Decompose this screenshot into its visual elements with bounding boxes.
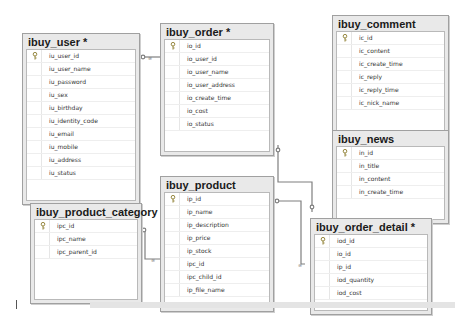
column-row[interactable]: ip_name	[165, 206, 269, 219]
column-row[interactable]: iod_id	[315, 235, 427, 248]
table-title[interactable]: ibuy_user *	[23, 34, 139, 49]
column-row[interactable]: ip_description	[165, 219, 269, 232]
row-gutter	[351, 173, 352, 185]
table-ibuy-user[interactable]: ibuy_user *iu_user_idiu_user_nameiu_pass…	[22, 33, 140, 205]
column-name: io_status	[187, 120, 214, 127]
column-row[interactable]: ip_id	[315, 261, 427, 274]
row-gutter	[329, 274, 330, 286]
row-gutter	[179, 66, 180, 78]
empty-row	[35, 289, 137, 299]
column-name: io_create_time	[187, 94, 231, 101]
relationship-product-orderdetail[interactable]: ∞	[272, 199, 305, 268]
table-ibuy-order-detail[interactable]: ibuy_order_detail *iod_idio_idip_idiod_q…	[310, 218, 432, 315]
row-gutter	[351, 58, 352, 70]
primary-key-icon	[342, 149, 348, 157]
column-row[interactable]: iu_birthday	[27, 102, 135, 115]
row-gutter	[329, 235, 330, 247]
table-title[interactable]: ibuy_order *	[161, 24, 273, 39]
column-row[interactable]: iu_mobile	[27, 141, 135, 154]
column-row[interactable]: in_id	[337, 147, 444, 160]
row-gutter	[179, 79, 180, 91]
column-name: io_id	[187, 42, 201, 49]
column-row[interactable]: ic_content	[337, 45, 444, 58]
column-row[interactable]: in_content	[337, 173, 444, 186]
column-row[interactable]: io_user_address	[165, 79, 269, 92]
column-name: iu_email	[49, 130, 74, 137]
column-name: in_create_time	[359, 188, 403, 195]
column-list: ic_idic_contentic_create_timeic_replyic_…	[336, 31, 445, 131]
row-gutter	[351, 160, 352, 172]
column-list: iu_user_idiu_user_nameiu_passwordiu_sexi…	[26, 49, 136, 201]
primary-key-icon	[320, 237, 326, 245]
column-row[interactable]: io_id	[315, 248, 427, 261]
column-row[interactable]: ic_create_time	[337, 58, 444, 71]
column-row[interactable]: ipc_name	[35, 233, 137, 246]
column-row[interactable]: io_user_id	[165, 53, 269, 66]
column-name: iu_mobile	[49, 143, 78, 150]
column-row[interactable]: io_status	[165, 118, 269, 131]
table-title[interactable]: ibuy_product_category	[31, 204, 141, 219]
table-ibuy-news[interactable]: ibuy_newsin_idin_titlein_contentin_creat…	[332, 130, 449, 224]
column-row[interactable]: iu_user_name	[27, 63, 135, 76]
empty-row	[27, 190, 135, 200]
column-name: ipc_child_id	[187, 273, 222, 280]
table-ibuy-order[interactable]: ibuy_order *io_idio_user_idio_user_namei…	[160, 23, 274, 156]
row-gutter	[179, 92, 180, 104]
column-row[interactable]: io_user_name	[165, 66, 269, 79]
column-row[interactable]: in_create_time	[337, 186, 444, 199]
row-gutter	[49, 233, 50, 245]
column-row[interactable]: iu_user_id	[27, 50, 135, 63]
relationship-user-order[interactable]: ∞	[138, 55, 160, 61]
table-ibuy-product[interactable]: ibuy_productip_idip_nameip_descriptionip…	[160, 176, 274, 312]
row-gutter	[351, 186, 352, 198]
column-name: iu_user_id	[49, 52, 79, 59]
column-row[interactable]: ic_reply	[337, 71, 444, 84]
column-row[interactable]: io_create_time	[165, 92, 269, 105]
column-row[interactable]: ip_file_name	[165, 284, 269, 297]
column-row[interactable]: iu_password	[27, 76, 135, 89]
table-title[interactable]: ibuy_order_detail *	[311, 219, 431, 234]
row-gutter	[179, 232, 180, 244]
column-name: iu_identity_code	[49, 117, 98, 124]
column-name: in_id	[359, 149, 373, 156]
column-row[interactable]: ic_nick_name	[337, 97, 444, 110]
primary-key-icon	[170, 195, 176, 203]
column-name: ipc_id	[187, 260, 204, 267]
column-row[interactable]: iu_email	[27, 128, 135, 141]
column-name: in_content	[359, 175, 390, 182]
empty-row	[337, 110, 444, 120]
table-title[interactable]: ibuy_news	[333, 131, 448, 146]
relationship-order-orderdetail[interactable]	[276, 145, 314, 212]
column-row[interactable]: iod_quantity	[315, 274, 427, 287]
column-row[interactable]: ip_id	[165, 193, 269, 206]
column-row[interactable]: ip_stock	[165, 245, 269, 258]
table-ibuy-comment[interactable]: ibuy_commentic_idic_contentic_create_tim…	[332, 15, 449, 135]
column-row[interactable]: ipc_id	[165, 258, 269, 271]
column-row[interactable]: iu_identity_code	[27, 115, 135, 128]
column-name: iod_id	[337, 237, 355, 244]
column-row[interactable]: ic_id	[337, 32, 444, 45]
column-row[interactable]: ic_reply_time	[337, 84, 444, 97]
infinity-end-icon	[310, 205, 314, 209]
column-row[interactable]: iod_cost	[315, 287, 427, 300]
column-row[interactable]: ipc_parent_id	[35, 246, 137, 259]
table-title[interactable]: ibuy_comment	[333, 16, 448, 31]
column-row[interactable]: ipc_id	[35, 220, 137, 233]
column-row[interactable]: iu_address	[27, 154, 135, 167]
column-row[interactable]: iu_status	[27, 167, 135, 180]
column-row[interactable]: iu_sex	[27, 89, 135, 102]
row-gutter	[41, 128, 42, 140]
table-title[interactable]: ibuy_product	[161, 177, 273, 192]
column-row[interactable]: ip_price	[165, 232, 269, 245]
column-row[interactable]: io_id	[165, 40, 269, 53]
key-end-icon	[276, 148, 280, 152]
table-ibuy-product-category[interactable]: ibuy_product_categoryipc_idipc_nameipc_p…	[30, 203, 142, 304]
column-row[interactable]: in_title	[337, 160, 444, 173]
key-end-icon	[142, 228, 146, 232]
horizontal-scrollbar[interactable]	[90, 302, 455, 308]
column-row[interactable]: ipc_child_id	[165, 271, 269, 284]
empty-row	[35, 279, 137, 289]
column-name: iu_password	[49, 78, 86, 85]
column-list: ip_idip_nameip_descriptionip_priceip_sto…	[164, 192, 270, 308]
column-row[interactable]: io_cost	[165, 105, 269, 118]
